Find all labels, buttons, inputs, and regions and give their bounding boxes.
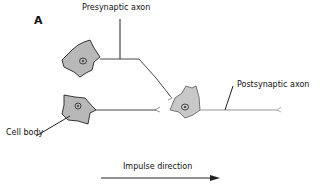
axon-terminal — [277, 107, 281, 112]
neuron-diagram — [0, 0, 325, 190]
arrowhead-icon — [210, 175, 220, 181]
postsynaptic-neuron — [170, 86, 200, 118]
presynaptic-neuron-top — [62, 40, 100, 77]
synapse-terminal-bottom — [155, 107, 160, 112]
presynaptic-neuron-bottom — [62, 95, 96, 124]
postsynaptic-axon-pointer — [225, 86, 233, 110]
synapse-terminal-top — [168, 94, 172, 100]
presynaptic-axon-top — [100, 59, 171, 97]
cell-body-pointer — [36, 116, 70, 136]
